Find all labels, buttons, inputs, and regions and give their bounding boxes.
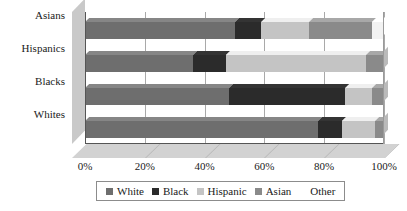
legend-swatch-icon bbox=[152, 188, 159, 195]
category-label-asians: Asians bbox=[35, 9, 65, 21]
bar-segment-face bbox=[229, 88, 346, 105]
legend-item-asian[interactable]: Asian bbox=[255, 185, 292, 197]
bar-segment-face bbox=[85, 55, 193, 72]
bar-segment-face bbox=[226, 55, 367, 72]
bar-segment-top bbox=[309, 18, 376, 22]
tick-label: 80% bbox=[314, 160, 334, 173]
category-label-whites: Whites bbox=[34, 108, 65, 120]
bar-segment-top bbox=[85, 51, 197, 55]
stacked-bar-chart: WhitesBlacksHispanicsAsians 0%20%40%60%8… bbox=[0, 0, 407, 211]
bar-row bbox=[85, 84, 384, 105]
bar-segment-top bbox=[85, 84, 233, 88]
legend-swatch-icon bbox=[299, 188, 306, 195]
legend-item-label: Other bbox=[310, 185, 335, 197]
bar-segment-white bbox=[85, 121, 318, 138]
bar-segment-side bbox=[384, 47, 388, 68]
bar-segment-face bbox=[318, 121, 342, 138]
chart-floor bbox=[72, 144, 398, 158]
legend-item-label: Hispanic bbox=[208, 185, 247, 197]
bar-segment-side bbox=[384, 14, 388, 35]
bar-segment-face bbox=[309, 22, 372, 39]
legend-item-other[interactable]: Other bbox=[299, 185, 335, 197]
bar-segment-side bbox=[384, 113, 388, 134]
bar-row bbox=[85, 18, 384, 39]
bar-segment-hispanic bbox=[226, 55, 367, 72]
legend-swatch-icon bbox=[106, 188, 113, 195]
legend-swatch-icon bbox=[197, 188, 204, 195]
tick-label: 0% bbox=[78, 160, 93, 173]
bar-segment-hispanic bbox=[342, 121, 375, 138]
bar-segment-asian bbox=[366, 55, 384, 72]
legend-item-label: Asian bbox=[266, 185, 292, 197]
chart-legend: WhiteBlackHispanicAsianOther bbox=[96, 181, 345, 201]
bar-segment-black bbox=[318, 121, 342, 138]
bar-segment-face bbox=[235, 22, 262, 39]
bar-segment-top bbox=[261, 18, 313, 22]
bar-segment-black bbox=[193, 55, 226, 72]
bar-segment-top bbox=[229, 84, 350, 88]
legend-item-label: Black bbox=[163, 185, 189, 197]
plot-area bbox=[72, 12, 384, 158]
bar-segment-white bbox=[85, 22, 235, 39]
bar-segment-top bbox=[85, 117, 322, 121]
bar-row bbox=[85, 117, 384, 138]
bar-segment-face bbox=[366, 55, 384, 72]
bar-segment-top bbox=[226, 51, 371, 55]
category-label-blacks: Blacks bbox=[35, 75, 65, 87]
bar-segment-face bbox=[261, 22, 309, 39]
chart-sidewall bbox=[72, 0, 85, 144]
bar-segment-side bbox=[384, 80, 388, 101]
tick-label: 20% bbox=[135, 160, 155, 173]
value-axis-line bbox=[85, 12, 86, 144]
bar-segment-top bbox=[193, 51, 230, 55]
bar-series-container bbox=[85, 12, 384, 144]
legend-item-hispanic[interactable]: Hispanic bbox=[197, 185, 247, 197]
bar-segment-face bbox=[345, 88, 372, 105]
bar-segment-white bbox=[85, 55, 193, 72]
tick-label: 40% bbox=[195, 160, 215, 173]
category-axis-labels: WhitesBlacksHispanicsAsians bbox=[0, 12, 70, 144]
bar-segment-hispanic bbox=[345, 88, 372, 105]
plot-right-edge bbox=[383, 12, 384, 144]
value-axis-tick-labels: 0%20%40%60%80%100% bbox=[72, 160, 384, 176]
bar-segment-top bbox=[342, 117, 379, 121]
bar-segment-face bbox=[342, 121, 375, 138]
bar-segment-face bbox=[85, 22, 235, 39]
legend-item-white[interactable]: White bbox=[106, 185, 144, 197]
bar-row bbox=[85, 51, 384, 72]
bar-segment-face bbox=[85, 121, 318, 138]
bar-segment-top bbox=[85, 18, 239, 22]
tick-label: 100% bbox=[371, 160, 397, 173]
bar-segment-face bbox=[193, 55, 226, 72]
category-axis-line bbox=[85, 143, 384, 144]
bar-segment-hispanic bbox=[261, 22, 309, 39]
bar-segment-black bbox=[235, 22, 262, 39]
bar-segment-asian bbox=[309, 22, 372, 39]
bar-segment-face bbox=[85, 88, 229, 105]
legend-swatch-icon bbox=[255, 188, 262, 195]
legend-item-black[interactable]: Black bbox=[152, 185, 189, 197]
tick-label: 60% bbox=[254, 160, 274, 173]
bar-segment-black bbox=[229, 88, 346, 105]
category-label-hispanics: Hispanics bbox=[22, 42, 65, 54]
bar-segment-white bbox=[85, 88, 229, 105]
legend-item-label: White bbox=[117, 185, 144, 197]
